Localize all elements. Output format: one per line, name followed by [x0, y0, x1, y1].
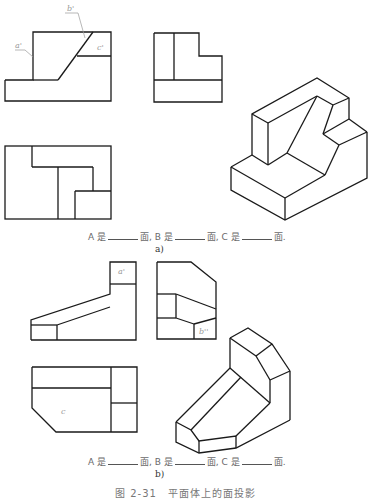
question-a-A: A 是 — [88, 232, 106, 242]
blank-b-2[interactable] — [175, 456, 205, 465]
blank-a-3[interactable] — [242, 231, 272, 240]
figure-caption: 图 2-31 平面体上的面投影 — [115, 485, 256, 500]
sublabel-a: a) — [155, 244, 164, 254]
blank-b-1[interactable] — [108, 456, 138, 465]
view-a-front — [5, 13, 111, 101]
blank-a-1[interactable] — [108, 231, 138, 240]
question-a-end: 面. — [274, 232, 286, 242]
blank-b-3[interactable] — [242, 456, 272, 465]
question-b-end: 面. — [274, 457, 286, 467]
question-b-B: 面, B 是 — [140, 457, 173, 467]
question-b: A 是面, B 是面, C 是面. — [88, 455, 286, 468]
view-b-top — [32, 367, 137, 432]
label-a-prime: a' — [15, 41, 22, 50]
sublabel-b: b) — [155, 469, 164, 479]
view-a-side — [154, 33, 222, 102]
label-b-c: c — [61, 407, 66, 416]
question-a-B: 面, B 是 — [140, 232, 173, 242]
label-c-prime: c' — [97, 43, 104, 52]
question-b-A: A 是 — [88, 457, 106, 467]
label-b-a-prime: a' — [118, 267, 125, 276]
question-a: A 是面, B 是面, C 是面. — [88, 230, 286, 243]
question-b-C: 面, C 是 — [207, 457, 240, 467]
blank-a-2[interactable] — [175, 231, 205, 240]
label-b-prime: b' — [67, 4, 74, 13]
label-b-b-dprime: b'' — [199, 327, 209, 336]
view-a-top — [5, 146, 111, 219]
view-a-isometric — [231, 78, 367, 220]
view-b-isometric — [176, 328, 290, 453]
question-a-C: 面, C 是 — [207, 232, 240, 242]
